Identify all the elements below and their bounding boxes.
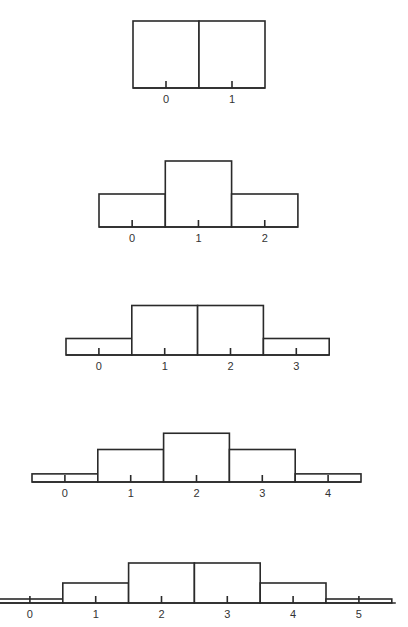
x-tick-label: 1 xyxy=(93,608,99,620)
x-tick-label: 4 xyxy=(290,608,296,620)
histogram-2: 012 xyxy=(99,161,298,244)
histogram-bar xyxy=(199,21,265,88)
x-tick-label: 2 xyxy=(227,360,233,372)
binomial-histograms: 01012012301234012345 xyxy=(0,0,408,627)
x-tick-label: 0 xyxy=(129,232,135,244)
x-tick-label: 5 xyxy=(356,608,362,620)
x-tick-label: 1 xyxy=(162,360,168,372)
x-tick-label: 0 xyxy=(62,487,68,499)
x-tick-label: 0 xyxy=(27,608,33,620)
x-tick-label: 0 xyxy=(163,93,169,105)
histogram-bar xyxy=(198,306,264,356)
x-tick-label: 1 xyxy=(229,93,235,105)
x-tick-label: 1 xyxy=(195,232,201,244)
histogram-1: 01 xyxy=(133,21,265,105)
x-tick-label: 0 xyxy=(96,360,102,372)
histogram-bar xyxy=(164,433,230,482)
x-tick-label: 2 xyxy=(158,608,164,620)
x-tick-label: 1 xyxy=(128,487,134,499)
histogram-bar xyxy=(132,306,198,356)
histogram-5: 012345 xyxy=(0,563,396,620)
histogram-bar xyxy=(133,21,199,88)
histogram-3: 0123 xyxy=(66,306,329,373)
histogram-bar xyxy=(165,161,231,227)
x-tick-label: 3 xyxy=(293,360,299,372)
x-tick-label: 2 xyxy=(193,487,199,499)
histogram-4: 01234 xyxy=(32,433,361,499)
x-tick-label: 3 xyxy=(224,608,230,620)
x-tick-label: 3 xyxy=(259,487,265,499)
x-tick-label: 4 xyxy=(325,487,331,499)
x-tick-label: 2 xyxy=(262,232,268,244)
